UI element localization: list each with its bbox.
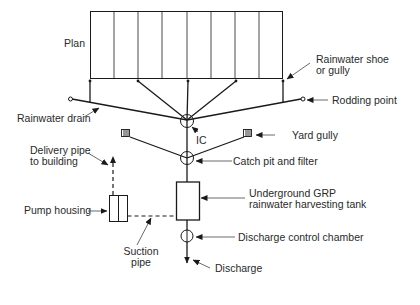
rainwater-drain-label: Rainwater drain: [17, 113, 91, 124]
suction-pipe-label-line2: pipe: [118, 257, 164, 268]
discharge-chamber-label: Discharge control chamber: [238, 232, 363, 243]
delivery-pipe-label: Delivery pipe to building: [30, 145, 91, 167]
catch-pit-label: Catch pit and filter: [233, 156, 318, 167]
rodding-point-icons: [69, 97, 306, 101]
rodding-point-label: Rodding point: [332, 95, 397, 106]
pump-housing-icon: [110, 196, 128, 222]
pump-housing-label: Pump housing: [24, 205, 91, 216]
suction-pipe-label: Suction pipe: [118, 246, 164, 268]
delivery-pipe-label-line2: to building: [30, 156, 91, 167]
tank-label-line2: rainwater harvesting tank: [249, 199, 366, 210]
yard-gully-label: Yard gully: [292, 130, 338, 141]
rainwater-shoe-label-line2: or gully: [316, 65, 389, 76]
discharge-chamber-icon: [181, 230, 193, 242]
building-plan: [91, 12, 283, 79]
tank-label: Underground GRP rainwater harvesting tan…: [249, 188, 366, 210]
rainwater-tank-icon: [177, 182, 200, 220]
rainwater-shoe-icons: [89, 80, 285, 83]
ic-label: IC: [196, 135, 207, 146]
delivery-arrowhead-icon: [110, 156, 116, 163]
plan-label: Plan: [64, 38, 85, 49]
discharge-label: Discharge: [215, 263, 262, 274]
rainwater-shoe-label: Rainwater shoe or gully: [316, 54, 389, 76]
